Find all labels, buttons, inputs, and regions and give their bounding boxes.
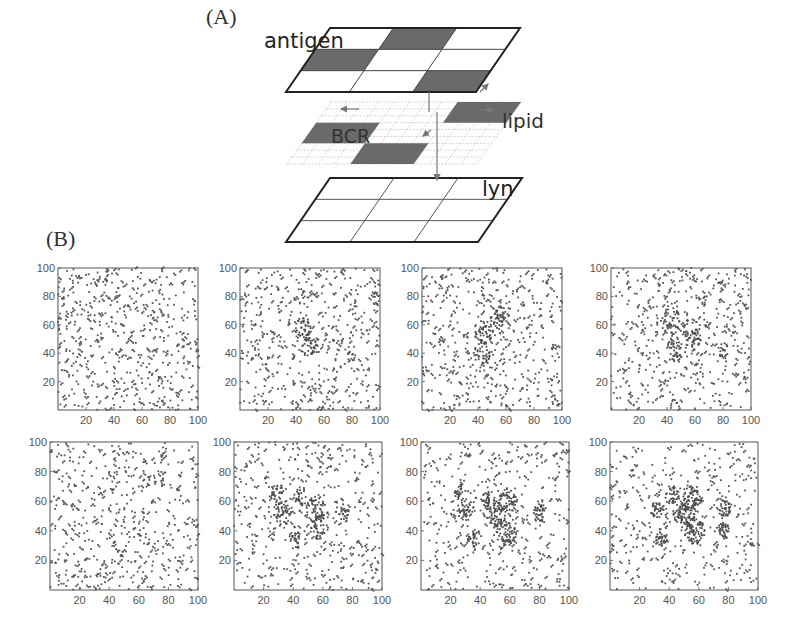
svg-text:100: 100 <box>213 436 231 448</box>
svg-text:40: 40 <box>663 594 675 606</box>
svg-text:40: 40 <box>596 347 608 359</box>
svg-text:20: 20 <box>225 376 237 388</box>
svg-text:80: 80 <box>346 414 358 426</box>
svg-text:60: 60 <box>406 495 418 507</box>
svg-text:40: 40 <box>287 594 299 606</box>
svg-text:40: 40 <box>225 347 237 359</box>
svg-text:40: 40 <box>290 414 302 426</box>
svg-text:100: 100 <box>37 262 55 274</box>
svg-text:60: 60 <box>595 495 607 507</box>
svg-text:20: 20 <box>596 376 608 388</box>
svg-text:40: 40 <box>108 414 120 426</box>
svg-text:100: 100 <box>553 414 571 426</box>
bcr-label: BCR <box>331 125 370 147</box>
svg-text:40: 40 <box>595 525 607 537</box>
scatter-plot-3: 2040608010020406080100 <box>394 262 566 436</box>
svg-text:40: 40 <box>661 414 673 426</box>
layer-diagram: antigen BCR lipid lyn <box>230 0 560 250</box>
svg-text:20: 20 <box>407 376 419 388</box>
svg-text:20: 20 <box>80 414 92 426</box>
svg-text:40: 40 <box>472 414 484 426</box>
scatter-plot-6: 2040608010020406080100 <box>206 436 386 616</box>
svg-text:80: 80 <box>596 290 608 302</box>
svg-text:80: 80 <box>35 466 47 478</box>
scatter-plot-4: 2040608010020406080100 <box>583 262 755 436</box>
svg-text:80: 80 <box>407 290 419 302</box>
svg-text:20: 20 <box>633 594 645 606</box>
svg-text:40: 40 <box>407 347 419 359</box>
svg-text:80: 80 <box>595 466 607 478</box>
svg-text:40: 40 <box>35 525 47 537</box>
svg-text:80: 80 <box>162 594 174 606</box>
svg-text:80: 80 <box>225 290 237 302</box>
svg-text:80: 80 <box>533 594 545 606</box>
svg-text:20: 20 <box>262 414 274 426</box>
svg-text:60: 60 <box>225 319 237 331</box>
lyn-label: lyn <box>482 177 514 201</box>
plot-frame <box>611 268 751 410</box>
svg-text:100: 100 <box>373 594 391 606</box>
svg-text:40: 40 <box>406 525 418 537</box>
svg-text:20: 20 <box>35 554 47 566</box>
svg-text:20: 20 <box>257 594 269 606</box>
svg-text:100: 100 <box>749 594 767 606</box>
svg-text:60: 60 <box>318 414 330 426</box>
svg-text:60: 60 <box>693 594 705 606</box>
svg-text:80: 80 <box>43 290 55 302</box>
lipid-label: lipid <box>502 109 544 133</box>
antigen-label: antigen <box>264 29 344 53</box>
svg-text:100: 100 <box>742 414 760 426</box>
svg-text:20: 20 <box>444 414 456 426</box>
panel-b-label: (B) <box>46 226 75 252</box>
svg-text:20: 20 <box>444 594 456 606</box>
svg-text:100: 100 <box>29 436 47 448</box>
svg-text:80: 80 <box>346 594 358 606</box>
svg-text:100: 100 <box>371 414 389 426</box>
svg-text:60: 60 <box>317 594 329 606</box>
svg-text:60: 60 <box>43 319 55 331</box>
svg-text:40: 40 <box>43 347 55 359</box>
svg-text:60: 60 <box>219 495 231 507</box>
svg-text:40: 40 <box>474 594 486 606</box>
scatter-plot-8: 2040608010020406080100 <box>582 436 762 616</box>
svg-text:20: 20 <box>406 554 418 566</box>
svg-text:80: 80 <box>528 414 540 426</box>
svg-text:60: 60 <box>500 414 512 426</box>
svg-text:20: 20 <box>73 594 85 606</box>
svg-text:60: 60 <box>136 414 148 426</box>
svg-text:60: 60 <box>407 319 419 331</box>
plot-frame <box>610 442 758 590</box>
svg-text:100: 100 <box>400 436 418 448</box>
svg-text:60: 60 <box>596 319 608 331</box>
svg-text:60: 60 <box>133 594 145 606</box>
svg-text:60: 60 <box>35 495 47 507</box>
plot-frame <box>50 442 198 590</box>
svg-text:20: 20 <box>219 554 231 566</box>
scatter-plot-1: 2040608010020406080100 <box>30 262 202 436</box>
layer-diagram-svg: antigen BCR lipid lyn <box>230 0 560 250</box>
svg-text:20: 20 <box>595 554 607 566</box>
svg-text:20: 20 <box>43 376 55 388</box>
svg-text:100: 100 <box>560 594 578 606</box>
svg-text:100: 100 <box>589 436 607 448</box>
svg-text:80: 80 <box>717 414 729 426</box>
scatter-plot-2: 2040608010020406080100 <box>212 262 384 436</box>
svg-text:80: 80 <box>219 466 231 478</box>
svg-text:60: 60 <box>689 414 701 426</box>
svg-text:100: 100 <box>189 594 207 606</box>
svg-text:80: 80 <box>722 594 734 606</box>
svg-text:20: 20 <box>633 414 645 426</box>
svg-text:100: 100 <box>219 262 237 274</box>
svg-text:80: 80 <box>406 466 418 478</box>
svg-text:60: 60 <box>504 594 516 606</box>
svg-text:100: 100 <box>401 262 419 274</box>
scatter-plot-5: 2040608010020406080100 <box>22 436 202 616</box>
svg-text:40: 40 <box>219 525 231 537</box>
lipid-layer <box>287 102 521 164</box>
svg-text:80: 80 <box>164 414 176 426</box>
scatter-plot-7: 2040608010020406080100 <box>393 436 573 616</box>
svg-text:100: 100 <box>189 414 207 426</box>
svg-text:100: 100 <box>590 262 608 274</box>
svg-text:40: 40 <box>103 594 115 606</box>
